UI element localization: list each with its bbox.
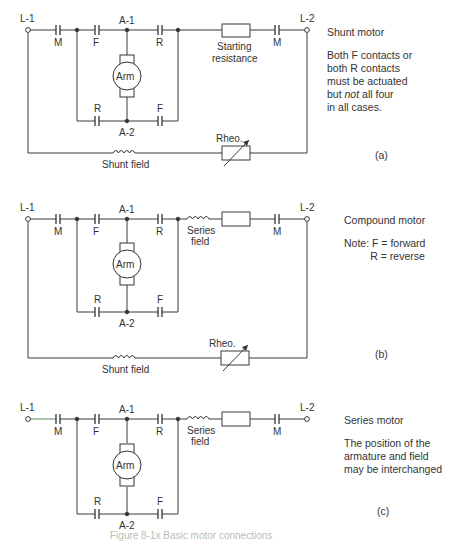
label-a2: A-2 <box>119 127 135 138</box>
label-rheo: Rheo. <box>216 133 243 144</box>
label-r-bottom: R <box>94 103 101 114</box>
panel-a-title: Shunt motor <box>327 26 412 39</box>
label-series-field-2: field <box>191 236 209 247</box>
label-a1: A-1 <box>119 15 135 26</box>
label-r-bottom: R <box>94 496 101 507</box>
panel-c-title: Series motor <box>344 414 442 427</box>
label-starting-1: Starting <box>217 41 251 52</box>
label-l2: L-2 <box>300 402 315 413</box>
figure-caption: Figure 8-1x Basic motor connections <box>110 530 272 541</box>
panel-a-note-line: in all cases. <box>327 101 412 114</box>
label-shunt-field: Shunt field <box>102 364 149 375</box>
label-series-field-1: Series <box>187 425 215 436</box>
label-f-top: F <box>93 37 99 48</box>
panel-b-title: Compound motor <box>344 214 425 227</box>
panel-a-shunt-motor <box>26 24 310 166</box>
label-a1: A-1 <box>119 404 135 415</box>
panel-b-compound-motor <box>26 212 310 371</box>
label-l2: L-2 <box>300 13 315 24</box>
label-a2: A-2 <box>119 318 135 329</box>
label-m-left: M <box>54 37 62 48</box>
panel-c-note-line: armature and field <box>344 450 442 463</box>
label-f-top: F <box>93 426 99 437</box>
label-m-right: M <box>273 37 281 48</box>
label-rheo: Rheo. <box>209 338 236 349</box>
panel-c-description: Series motor The position of the armatur… <box>344 414 442 476</box>
panel-c-note-line: may be interchanged <box>344 463 442 476</box>
label-m-left: M <box>54 426 62 437</box>
emphasis-not: not <box>345 88 360 100</box>
panel-a-note-line: Both F contacts or <box>327 49 412 62</box>
panel-a-note-line: both R contacts <box>327 62 412 75</box>
label-r-top: R <box>156 226 163 237</box>
label-f-bottom: F <box>157 103 163 114</box>
label-r-bottom: R <box>94 294 101 305</box>
panel-c-tag: (c) <box>377 505 389 517</box>
label-f-bottom: F <box>157 496 163 507</box>
panel-a-tag: (a) <box>375 149 388 161</box>
label-a1: A-1 <box>119 204 135 215</box>
label-l1: L-1 <box>20 402 35 413</box>
panel-b-tag: (b) <box>375 348 388 360</box>
label-l2: L-2 <box>300 202 315 213</box>
panel-a-note-line: must be actuated <box>327 75 412 88</box>
label-shunt-field: Shunt field <box>102 159 149 170</box>
label-r-top: R <box>156 426 163 437</box>
panel-a-description: Shunt motor Both F contacts or both R co… <box>327 26 412 114</box>
label-series-field-1: Series <box>187 225 215 236</box>
label-arm: Arm <box>116 460 134 471</box>
panel-c-series-motor <box>26 412 310 519</box>
panel-b-note-line: R = reverse <box>344 250 425 263</box>
label-f-bottom: F <box>157 294 163 305</box>
label-l1: L-1 <box>20 202 35 213</box>
panel-b-note-line: Note: F = forward <box>344 237 425 250</box>
panel-b-description: Compound motor Note: F = forward R = rev… <box>344 214 425 263</box>
label-arm: Arm <box>116 259 134 270</box>
panel-c-note-line: The position of the <box>344 437 442 450</box>
label-f-top: F <box>93 226 99 237</box>
label-arm: Arm <box>116 71 134 82</box>
label-m-right: M <box>273 426 281 437</box>
label-m-right: M <box>273 226 281 237</box>
label-l1: L-1 <box>20 13 35 24</box>
panel-a-note-line-italic: but not all four <box>327 88 412 101</box>
label-starting-2: resistance <box>212 53 258 64</box>
label-series-field-2: field <box>191 436 209 447</box>
label-r-top: R <box>156 37 163 48</box>
label-m-left: M <box>54 226 62 237</box>
